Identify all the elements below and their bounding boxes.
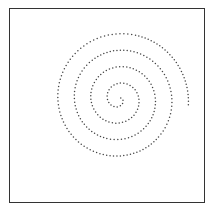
- spiral-dot: [98, 76, 100, 78]
- spiral-dot: [123, 33, 125, 35]
- spiral-dot: [94, 82, 96, 84]
- spiral-dot: [188, 104, 190, 106]
- spiral-dot: [115, 66, 117, 68]
- spiral-dot: [151, 143, 153, 145]
- spiral-dot: [113, 50, 115, 52]
- spiral-dot: [106, 138, 108, 140]
- spiral-dot: [138, 99, 140, 101]
- spiral-dot: [155, 101, 157, 103]
- spiral-dot: [84, 67, 86, 69]
- spiral-dot: [157, 65, 159, 67]
- spiral-dot: [141, 36, 143, 38]
- spiral-dot: [123, 155, 125, 157]
- spiral-dot: [74, 87, 76, 89]
- spiral-dot: [100, 74, 102, 76]
- spiral-dot: [90, 92, 92, 94]
- spiral-dot: [133, 153, 135, 155]
- spiral-dot: [187, 94, 189, 96]
- spiral-dot: [165, 77, 167, 79]
- spiral-dot: [168, 84, 170, 86]
- spiral-dot: [131, 136, 133, 138]
- spiral-dot: [169, 117, 171, 119]
- spiral-dot: [97, 56, 99, 58]
- spiral-dot: [130, 154, 132, 156]
- spiral-dot: [122, 122, 124, 124]
- spiral-dot: [62, 71, 64, 73]
- spiral-dot: [74, 94, 76, 96]
- spiral-dot: [93, 108, 95, 110]
- spiral-dot: [116, 83, 118, 85]
- spiral-dot: [162, 130, 164, 132]
- spiral-dot: [149, 120, 151, 122]
- spiral-dot: [65, 65, 67, 67]
- spiral-dot: [58, 86, 60, 88]
- spiral-dot: [171, 56, 173, 58]
- spiral-dot: [109, 68, 111, 70]
- spiral-dot: [134, 89, 136, 91]
- spiral-dot: [78, 141, 80, 143]
- spiral-dot: [78, 77, 80, 79]
- spiral-dot: [117, 139, 119, 141]
- spiral-dot: [171, 94, 173, 96]
- spiral-dot: [77, 112, 79, 114]
- spiral-dot: [92, 85, 94, 87]
- spiral-dot: [103, 53, 105, 55]
- spiral-dot: [138, 102, 140, 104]
- spiral-dot: [83, 45, 85, 47]
- spiral-dot: [145, 126, 147, 128]
- spiral-dot: [119, 66, 121, 68]
- spiral-dot: [103, 137, 105, 139]
- spiral-dot: [170, 113, 172, 115]
- spiral-dot: [153, 42, 155, 44]
- spiral-dot: [160, 133, 162, 135]
- spiral-dot: [166, 124, 168, 126]
- spiral-dot: [118, 122, 120, 124]
- spiral-dot: [77, 50, 79, 52]
- spiral-dot: [94, 57, 96, 59]
- spiral-dot: [146, 56, 148, 58]
- spiral-dot: [75, 108, 77, 110]
- spiral-dot: [112, 67, 114, 69]
- spiral-dot: [107, 92, 109, 94]
- spiral-dot: [100, 136, 102, 138]
- spiral-dot: [59, 82, 61, 84]
- spiral-dot: [74, 53, 76, 55]
- spiral-dot: [108, 89, 110, 91]
- spiral-dot: [99, 153, 101, 155]
- spiral-dot: [151, 117, 153, 119]
- spiral-dot: [86, 43, 88, 45]
- spiral-dot: [113, 84, 115, 86]
- spiral-dot: [106, 95, 108, 97]
- spiral-dot: [63, 121, 65, 123]
- spiral-dot: [162, 71, 164, 73]
- spiral-dot: [58, 104, 60, 106]
- spiral-dot: [80, 47, 82, 49]
- spiral-dot: [113, 139, 115, 141]
- spiral-dot: [143, 128, 145, 130]
- spiral-dot: [128, 137, 130, 139]
- spiral-dot: [152, 60, 154, 62]
- spiral-dot: [133, 114, 135, 116]
- spiral-dot: [147, 39, 149, 41]
- spiral-dot: [160, 68, 162, 70]
- spiral-dot: [179, 68, 181, 70]
- spiral-dot: [148, 145, 150, 147]
- spiral-dot: [153, 111, 155, 113]
- spiral-dot: [100, 54, 102, 56]
- spiral-dot: [123, 82, 125, 84]
- spiral-dot: [115, 122, 117, 124]
- spiral-dot: [93, 151, 95, 153]
- spiral-dot: [159, 45, 161, 47]
- spiral-dot: [106, 70, 108, 72]
- spiral-dot: [123, 49, 125, 51]
- spiral-dot: [129, 85, 131, 87]
- spiral-dot: [74, 98, 76, 100]
- spiral-dot: [93, 39, 95, 41]
- spiral-dot: [86, 126, 88, 128]
- spiral-dot: [61, 118, 63, 120]
- spiral-dot: [144, 75, 146, 77]
- spiral-dot: [171, 98, 173, 100]
- spiral-dot: [150, 84, 152, 86]
- spiral-dot: [103, 154, 105, 156]
- spiral-dot: [90, 41, 92, 43]
